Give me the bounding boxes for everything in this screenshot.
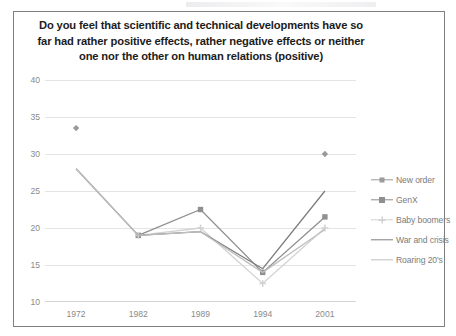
legend-swatch-icon <box>371 234 393 246</box>
y-axis-tick-label: 35 <box>30 112 40 122</box>
x-axis-tick-label: 2001 <box>315 309 334 319</box>
y-axis-tick-label: 40 <box>30 75 40 85</box>
legend-item-roaring-20-s[interactable]: Roaring 20's <box>371 250 456 270</box>
legend-item-label: GenX <box>396 195 418 205</box>
data-point-marker <box>198 207 203 212</box>
legend-item-label: New order <box>396 175 435 185</box>
chart-title: Do you feel that scientific and technica… <box>36 18 366 65</box>
series-line <box>138 228 325 284</box>
y-axis-tick-label: 25 <box>30 186 40 196</box>
x-axis-tick-label: 1989 <box>191 309 210 319</box>
y-axis-tick-label: 30 <box>30 149 40 159</box>
y-axis-tick-label: 20 <box>30 223 40 233</box>
chart-title-line-2: far had rather positive effects, rather … <box>36 34 366 50</box>
series-genx <box>136 207 328 275</box>
series-new-order <box>73 125 328 157</box>
series-line <box>76 169 325 273</box>
legend-item-baby-boomers[interactable]: Baby boomers <box>371 210 456 230</box>
data-point-marker <box>73 125 79 131</box>
chart-container: Do you feel that scientific and technica… <box>13 11 445 327</box>
screenshot-root: Do you feel that scientific and technica… <box>0 0 456 336</box>
series-roaring-20-s <box>76 169 325 273</box>
chart-title-line-3: one nor the other on human relations (po… <box>36 49 366 65</box>
legend-swatch-icon <box>371 174 393 186</box>
series-war-and-crisis <box>76 169 325 269</box>
chart-legend: New orderGenXBaby boomersWar and crisisR… <box>371 170 456 270</box>
y-axis-tick-label: 10 <box>30 297 40 307</box>
legend-item-label: Baby boomers <box>396 215 450 225</box>
y-axis-tick-label: 15 <box>30 260 40 270</box>
series-line <box>76 169 325 269</box>
legend-item-label: Roaring 20's <box>396 255 443 265</box>
legend-item-label: War and crisis <box>396 235 449 245</box>
series-layer <box>45 80 356 302</box>
data-point-marker <box>322 214 327 219</box>
data-point-marker <box>322 151 328 157</box>
legend-swatch-icon <box>371 214 393 226</box>
legend-item-new-order[interactable]: New order <box>371 170 456 190</box>
legend-item-genx[interactable]: GenX <box>371 190 456 210</box>
x-axis-tick-label: 1994 <box>253 309 272 319</box>
plot-area: 10152025303540 19721982198919942001 <box>45 80 356 302</box>
page-top-artifact <box>186 2 376 7</box>
legend-swatch-icon <box>371 254 393 266</box>
x-axis-tick-label: 1972 <box>67 309 86 319</box>
legend-item-war-and-crisis[interactable]: War and crisis <box>371 230 456 250</box>
series-line <box>138 210 325 273</box>
chart-title-line-1: Do you feel that scientific and technica… <box>36 18 366 34</box>
x-axis-tick-label: 1982 <box>129 309 148 319</box>
legend-swatch-icon <box>371 194 393 206</box>
